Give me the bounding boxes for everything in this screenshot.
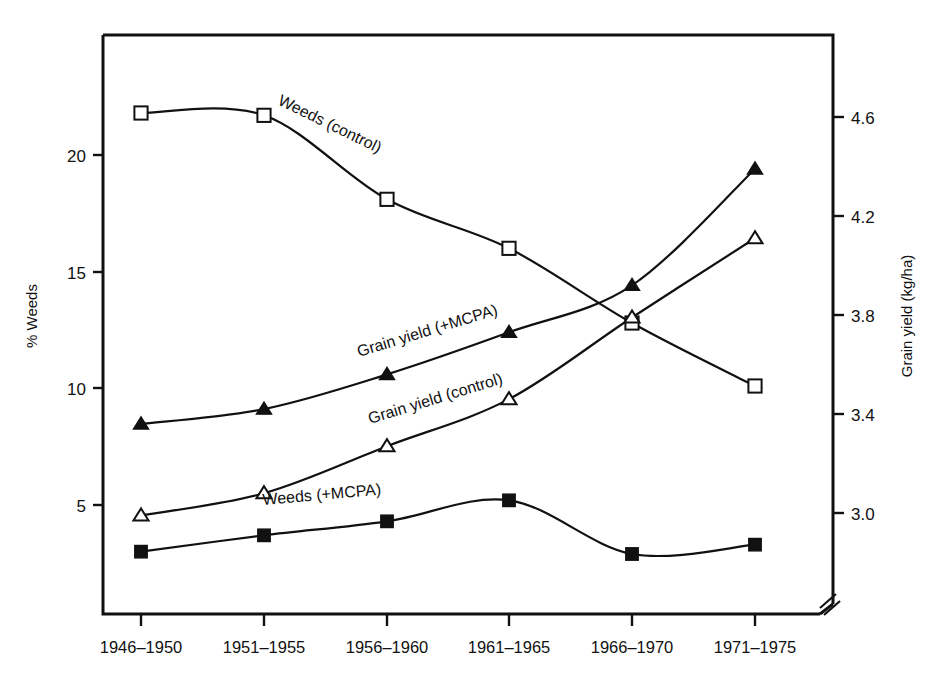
series-weeds-control <box>134 106 761 392</box>
y-ticklabel-20: 20 <box>67 147 86 166</box>
data-point-marker <box>257 109 270 122</box>
y2-ticklabel-4-6: 4.6 <box>851 109 875 128</box>
x-ticklabel-5: 1971–1975 <box>714 638 797 656</box>
data-point-marker <box>749 538 761 550</box>
y-axis-title-right: Grain yield (kg/ha) <box>898 255 915 378</box>
x-ticklabel-0: 1946–1950 <box>100 638 183 656</box>
chart-figure: 20 15 10 5 % Weeds 4.6 4.2 3.8 3.4 3.0 G… <box>0 0 936 687</box>
chart-svg: 20 15 10 5 % Weeds 4.6 4.2 3.8 3.4 3.0 G… <box>0 0 936 687</box>
data-point-marker <box>747 231 762 243</box>
y2-ticklabel-4-2: 4.2 <box>851 208 875 227</box>
x-axis-ticks: 1946–1950 1951–1955 1956–1960 1961–1965 … <box>100 614 797 656</box>
annotation-weeds-control: Weeds (control) <box>276 91 385 156</box>
data-point-marker <box>134 106 147 119</box>
data-point-marker <box>747 162 762 174</box>
y-ticklabel-5: 5 <box>77 497 86 516</box>
annotation-weeds-mcpa: Weeds (+MCPA) <box>262 481 382 508</box>
x-ticklabel-2: 1956–1960 <box>346 638 429 656</box>
x-ticklabel-3: 1961–1965 <box>468 638 551 656</box>
series-line <box>141 238 755 515</box>
series-weeds-mcpa <box>135 494 761 560</box>
series-line <box>141 499 755 556</box>
y-ticklabel-15: 15 <box>67 264 86 283</box>
y-axis-ticks-left: 20 15 10 5 <box>67 147 103 516</box>
data-point-marker <box>501 392 516 404</box>
data-point-marker <box>502 242 515 255</box>
data-point-marker <box>503 494 515 506</box>
data-point-marker <box>380 193 393 206</box>
y2-ticklabel-3-8: 3.8 <box>851 307 875 326</box>
series-line <box>141 108 755 386</box>
y-ticklabel-10: 10 <box>67 380 86 399</box>
data-point-marker <box>258 529 270 541</box>
y2-ticklabel-3-4: 3.4 <box>851 406 875 425</box>
annotation-grain-yield-mcpa: Grain yield (+MCPA) <box>355 301 500 360</box>
series-layer <box>133 106 762 560</box>
data-point-marker <box>626 548 638 560</box>
data-point-marker <box>381 515 393 527</box>
data-point-marker <box>748 379 761 392</box>
y-axis-ticks-right: 4.6 4.2 3.8 3.4 3.0 <box>833 109 875 524</box>
series-grain-yield-control <box>133 231 762 520</box>
data-point-marker <box>135 545 147 557</box>
x-ticklabel-1: 1951–1955 <box>223 638 306 656</box>
x-ticklabel-4: 1966–1970 <box>591 638 674 656</box>
y2-ticklabel-3-0: 3.0 <box>851 505 875 524</box>
y-axis-title-left: % Weeds <box>23 284 40 348</box>
data-point-marker <box>624 278 639 290</box>
